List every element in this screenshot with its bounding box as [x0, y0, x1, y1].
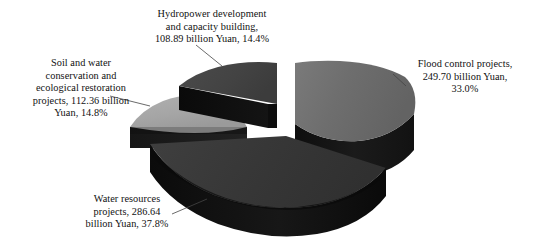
pie-label-soil-water: Soil and water conservation and ecologic… — [6, 57, 156, 120]
pie-label-water-resources: Water resources projects, 286.64 billion… — [52, 193, 202, 231]
pie-chart: Hydropower development and capacity buil… — [0, 0, 537, 247]
pie-label-hydropower: Hydropower development and capacity buil… — [128, 8, 296, 46]
pie-slice-soil-water-edge — [130, 127, 247, 134]
pie-slice-hydropower-side2 — [268, 104, 277, 128]
leader-line-hydropower — [196, 45, 222, 66]
pie-label-flood-control: Flood control projects, 249.70 billion Y… — [395, 58, 535, 96]
